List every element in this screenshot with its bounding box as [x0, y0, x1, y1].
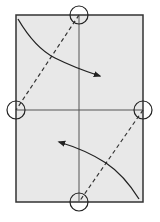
fold-diagram: [0, 0, 160, 222]
